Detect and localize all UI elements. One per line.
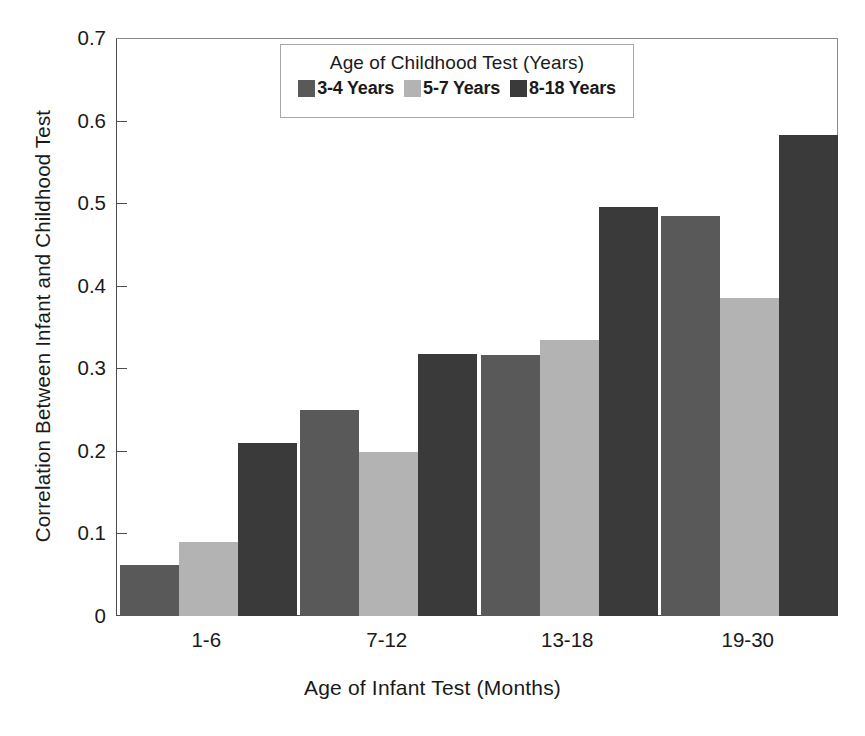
bar (418, 354, 477, 616)
x-axis-tick-label: 7-12 (297, 628, 477, 652)
bar (179, 542, 238, 616)
bar (238, 443, 297, 616)
x-axis-tick-label: 19-30 (658, 628, 838, 652)
bar (359, 452, 418, 616)
bar (120, 565, 179, 616)
bar (540, 340, 599, 616)
legend-swatch-icon (298, 80, 315, 97)
x-axis-title: Age of Infant Test (Months) (0, 676, 865, 700)
y-axis-tick-label: 0.3 (44, 356, 106, 380)
y-axis-tick-labels: 00.10.20.30.40.50.60.7 (44, 0, 106, 736)
bar (599, 207, 658, 616)
bar (300, 410, 359, 616)
legend-entry: 5-7 Years (404, 78, 500, 99)
bar (661, 216, 720, 616)
legend-swatch-icon (404, 80, 421, 97)
y-axis-tick-label: 0.4 (44, 274, 106, 298)
legend: Age of Childhood Test (Years) 3-4 Years5… (280, 44, 634, 118)
bar-chart-figure: Correlation Between Infant and Childhood… (0, 0, 865, 736)
y-axis-tick-label: 0.5 (44, 191, 106, 215)
x-axis-tick-labels: 1-67-1213-1819-30 (116, 628, 838, 658)
legend-label: 8-18 Years (529, 78, 616, 99)
legend-title: Age of Childhood Test (Years) (281, 52, 633, 74)
legend-entry: 8-18 Years (510, 78, 616, 99)
legend-entry: 3-4 Years (298, 78, 394, 99)
bar (779, 135, 838, 616)
y-axis-tick-label: 0.1 (44, 521, 106, 545)
legend-entries: 3-4 Years5-7 Years8-18 Years (281, 78, 633, 99)
y-axis-tick-label: 0.7 (44, 26, 106, 50)
y-axis-tick-label: 0.6 (44, 109, 106, 133)
x-axis-tick-label: 13-18 (477, 628, 657, 652)
bar (720, 298, 779, 616)
legend-label: 3-4 Years (317, 78, 394, 99)
legend-label: 5-7 Years (423, 78, 500, 99)
y-axis-tick-label: 0.2 (44, 439, 106, 463)
legend-swatch-icon (510, 80, 527, 97)
bars-container (116, 38, 838, 616)
x-axis-tick-label: 1-6 (116, 628, 296, 652)
y-axis-tick-label: 0 (44, 604, 106, 628)
bar (481, 355, 540, 616)
